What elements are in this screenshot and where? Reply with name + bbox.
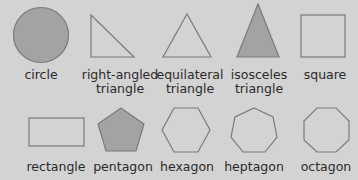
square-label-line1: square	[304, 68, 347, 82]
heptagon-label: heptagon	[224, 160, 284, 174]
octagon-label-line1: octagon	[301, 160, 352, 174]
equilateral-triangle-shape	[163, 14, 211, 57]
circle-label-line1: circle	[24, 68, 57, 82]
right-angled-triangle-label-line2: triangle	[82, 82, 159, 96]
octagon-shape	[304, 108, 349, 152]
isosceles-triangle-label: isosceles triangle	[231, 68, 287, 96]
circle-shape	[14, 8, 69, 63]
right-angled-triangle-label: right-angled triangle	[82, 68, 159, 96]
rectangle-shape	[29, 118, 84, 146]
rectangle-label-line1: rectangle	[26, 160, 85, 174]
hexagon-label-line1: hexagon	[160, 160, 214, 174]
right-angled-triangle-label-line1: right-angled	[82, 68, 159, 82]
circle-label: circle	[24, 68, 57, 82]
equilateral-triangle-label-line1: equilateral	[156, 68, 223, 82]
equilateral-triangle-label: equilateral triangle	[156, 68, 223, 96]
pentagon-label-line1: pentagon	[93, 160, 153, 174]
hexagon-label: hexagon	[160, 160, 214, 174]
square-shape	[301, 15, 345, 57]
isosceles-triangle-shape	[237, 4, 279, 57]
isosceles-triangle-label-line2: triangle	[231, 82, 287, 96]
heptagon-shape	[231, 108, 277, 152]
square-label: square	[304, 68, 347, 82]
hexagon-shape	[162, 108, 210, 152]
heptagon-label-line1: heptagon	[224, 160, 284, 174]
pentagon-shape	[98, 108, 144, 151]
pentagon-label: pentagon	[93, 160, 153, 174]
equilateral-triangle-label-line2: triangle	[156, 82, 223, 96]
rectangle-label: rectangle	[26, 160, 85, 174]
octagon-label: octagon	[301, 160, 352, 174]
right-angled-triangle-shape	[91, 15, 134, 57]
isosceles-triangle-label-line1: isosceles	[231, 68, 287, 82]
